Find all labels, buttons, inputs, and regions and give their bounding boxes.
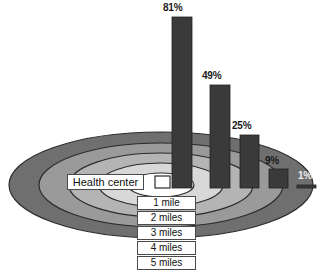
bar-1-mile bbox=[172, 17, 192, 188]
bar-value-label-1-mile: 81% bbox=[163, 2, 182, 13]
bar-value-label-5-miles: 1% bbox=[298, 170, 312, 181]
bar-value-label-2-miles: 49% bbox=[202, 70, 221, 81]
health-center-marker-icon bbox=[155, 176, 170, 188]
bar-2-miles bbox=[210, 85, 230, 188]
ring-label-2-miles: 2 miles bbox=[137, 211, 196, 225]
figure-canvas: 81% 49% 25% 9% 1% Health center 1 mile 2… bbox=[0, 0, 321, 271]
ring-label-4-miles: 4 miles bbox=[137, 241, 196, 255]
health-center-label: Health center bbox=[67, 174, 144, 190]
bar-5-miles bbox=[297, 185, 316, 188]
bar-value-label-3-miles: 25% bbox=[232, 120, 251, 131]
ring-label-3-miles: 3 miles bbox=[137, 226, 196, 240]
ring-label-1-mile: 1 mile bbox=[137, 196, 196, 210]
bar-3-miles bbox=[240, 135, 259, 188]
bar-value-label-4-miles: 9% bbox=[265, 155, 279, 166]
ring-label-5-miles: 5 miles bbox=[137, 256, 196, 270]
bar-4-miles bbox=[269, 169, 288, 188]
